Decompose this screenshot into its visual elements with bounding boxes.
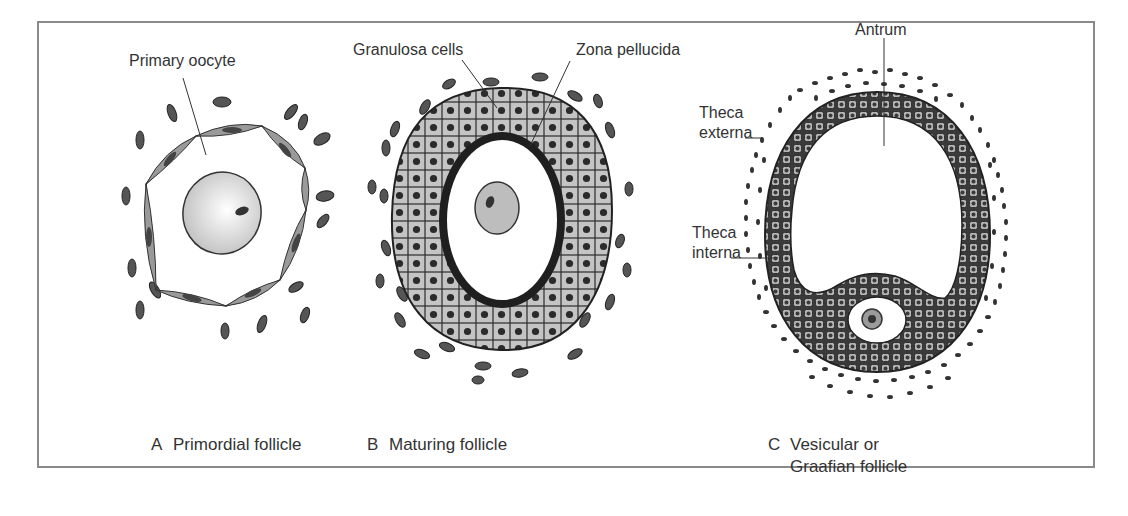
label-theca-externa-line2: externa (699, 124, 752, 142)
caption-letter-b: B (367, 434, 389, 456)
caption-panel-b: BMaturing follicle (367, 434, 507, 456)
label-primary-oocyte: Primary oocyte (129, 52, 236, 70)
caption-text-c-line1: Vesicular or (790, 435, 879, 454)
caption-letter-c: C (768, 434, 790, 456)
label-granulosa-cells: Granulosa cells (353, 41, 463, 59)
maturing-follicle-drawing (368, 60, 633, 384)
caption-text-a: Primordial follicle (173, 435, 301, 454)
caption-panel-a: APrimordial follicle (151, 434, 301, 456)
label-zona-pellucida: Zona pellucida (576, 41, 680, 59)
label-theca-interna-line1: Theca (692, 224, 736, 242)
caption-text-c-line2: Graafian follicle (768, 456, 907, 478)
caption-panel-c: CVesicular or Graafian follicle (768, 434, 907, 478)
caption-text-b: Maturing follicle (389, 435, 507, 454)
label-theca-interna-line2: interna (692, 244, 741, 262)
label-antrum: Antrum (855, 21, 907, 39)
label-theca-externa-line1: Theca (699, 104, 743, 122)
primordial-follicle-drawing (122, 78, 335, 339)
caption-letter-a: A (151, 434, 173, 456)
graafian-follicle-drawing (731, 38, 1008, 399)
